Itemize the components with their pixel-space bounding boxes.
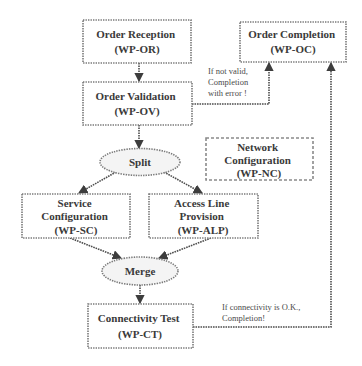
edge-label-connectivity-ok: If connectivity is O.K., Completion! xyxy=(222,302,303,323)
node-label-line: Order Reception xyxy=(96,28,175,40)
node-label-line: Service xyxy=(58,197,92,209)
node-label-line: (WP-OR) xyxy=(114,43,160,56)
node-label-line: (WP-OV) xyxy=(114,105,160,118)
edge-label-line: If not valid, xyxy=(208,66,248,76)
node-box xyxy=(83,82,192,125)
node-box xyxy=(88,304,193,348)
edge-access-line-to-merge xyxy=(159,238,211,258)
node-label: Split xyxy=(129,156,151,168)
node-label-line: Provision xyxy=(179,210,223,222)
node-label: Access Line Provision (WP-ALP) xyxy=(174,197,232,237)
node-merge: Merge xyxy=(102,257,178,285)
edge-label-line: with error ! xyxy=(208,88,247,98)
edge-split-to-service-config xyxy=(79,172,116,193)
node-label-line: (WP-CT) xyxy=(118,328,162,341)
node-order-validation: Order Validation (WP-OV) xyxy=(83,82,192,125)
node-label-line: Configuration xyxy=(224,154,291,166)
edge-label-line: Completion xyxy=(208,77,249,87)
edge-service-config-to-merge xyxy=(70,238,121,258)
diagram-svg: If not valid, Completion with error ! If… xyxy=(0,0,362,366)
node-label-line: Access Line xyxy=(174,197,229,209)
node-label: Merge xyxy=(125,265,156,277)
edge-label-line: Completion! xyxy=(222,313,265,323)
node-label-line: Configuration xyxy=(41,210,108,222)
node-label-line: Connectivity Test xyxy=(98,312,180,324)
workflow-diagram: If not valid, Completion with error ! If… xyxy=(0,0,362,366)
node-label-line: Network xyxy=(237,141,279,153)
edge-label-line: If connectivity is O.K., xyxy=(222,302,300,312)
node-connectivity-test: Connectivity Test (WP-CT) xyxy=(88,304,193,348)
node-order-reception: Order Reception (WP-OR) xyxy=(83,20,191,63)
node-label-line: (WP-OC) xyxy=(270,43,316,56)
node-order-completion: Order Completion (WP-OC) xyxy=(240,22,346,62)
node-network-configuration: Network Configuration (WP-NC) xyxy=(206,138,313,180)
node-box xyxy=(83,20,191,63)
node-label-line: (WP-SC) xyxy=(55,224,98,237)
edge-label-not-valid: If not valid, Completion with error ! xyxy=(208,66,250,98)
node-label-line: (WP-NC) xyxy=(237,167,282,180)
node-split: Split xyxy=(100,149,180,176)
node-access-line-provision: Access Line Provision (WP-ALP) xyxy=(149,194,258,238)
node-label-line: Order Completion xyxy=(248,28,335,40)
edge-split-to-access-line xyxy=(164,172,202,193)
node-service-configuration: Service Configuration (WP-SC) xyxy=(22,194,130,238)
node-label-line: (WP-ALP) xyxy=(178,224,229,237)
node-label-line: Order Validation xyxy=(96,90,176,102)
